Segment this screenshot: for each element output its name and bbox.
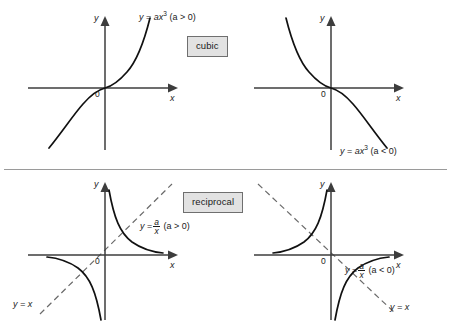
y-axis-arrowhead [327,16,336,26]
cubic-positive-plot [22,14,192,154]
fraction-a-over-x: ax [358,262,365,280]
equation-cubic-positive: y = ax3 (a > 0) [139,13,196,22]
y-axis-label: y [94,14,99,23]
x-axis-arrowhead [394,251,404,260]
badge-cubic: cubic [187,36,228,57]
eq-lhs: y [345,265,350,275]
x-axis-label: x [396,94,401,103]
eq-lhs: y [340,146,345,156]
eq-equals: = [146,12,151,22]
x-axis-arrowhead [394,84,404,93]
x-axis-label: x [396,261,401,270]
eq-equals: = [352,265,357,275]
eq-condition: (a > 0) [164,221,190,231]
reciprocal-positive-plot [22,178,202,324]
fraction-a-over-x: ax [153,218,160,236]
eq-lhs: y [139,12,144,22]
cubic-curve [49,18,150,148]
eq-lhs: y [140,221,145,231]
badge-reciprocal: reciprocal [183,192,243,213]
eq-equals: = [347,146,352,156]
eq-condition: (a > 0) [169,12,195,22]
hyperbola-branch-q2 [273,190,327,253]
equation-reciprocal-positive: y =ax (a > 0) [140,218,190,236]
symmetry-line-dashed [40,184,172,314]
eq-exponent: 3 [364,144,368,151]
eq-condition: (a < 0) [370,146,396,156]
eq-coefficient: ax [154,12,164,22]
panel-reciprocal-positive: x y 0 [22,178,202,324]
y-axis-arrowhead [101,16,110,26]
fraction-numerator: a [358,262,365,271]
asymptote-label-right: y = x [390,303,409,312]
equation-cubic-negative: y = ax3 (a < 0) [340,147,397,156]
origin-label: 0 [95,257,100,266]
panel-cubic-positive: x y 0 [22,14,192,154]
x-axis-label: x [170,261,175,270]
x-axis-arrowhead [168,84,178,93]
eq-condition: (a < 0) [369,265,395,275]
x-axis-arrowhead [168,251,178,260]
eq-exponent: 3 [163,10,167,17]
equation-reciprocal-negative: y =ax (a < 0) [345,262,395,280]
cubic-negative-plot [248,14,428,154]
origin-label: 0 [95,90,100,99]
y-axis-label: y [320,14,325,23]
x-axis-label: x [170,94,175,103]
figure-canvas: x y 0 y = ax3 (a > 0) cubic x y 0 y = ax… [0,0,451,329]
panel-cubic-negative: x y 0 [248,14,428,154]
y-axis-label: y [320,180,325,189]
fraction-denominator: x [358,270,365,280]
y-axis-arrowhead [101,182,110,192]
y-axis-label: y [94,180,99,189]
eq-equals: = [147,221,152,231]
origin-label: 0 [321,257,326,266]
section-divider [4,169,447,170]
hyperbola-branch-q3 [47,257,101,320]
eq-coefficient: ax [355,146,365,156]
cubic-curve [286,18,387,148]
y-axis-arrowhead [327,182,336,192]
fraction-numerator: a [153,218,160,227]
origin-label: 0 [321,90,326,99]
symmetry-line-dashed [258,184,396,314]
fraction-denominator: x [153,226,160,236]
asymptote-label-left: y = x [13,300,32,309]
